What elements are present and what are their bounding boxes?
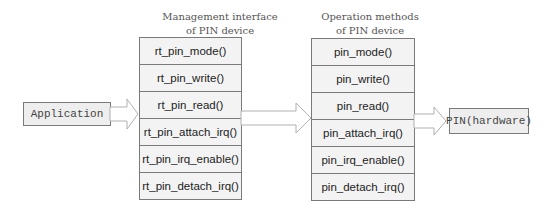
operation-item-pin-write: pin_write() — [312, 66, 414, 93]
management-interface-stack: rt_pin_mode() rt_pin_write() rt_pin_read… — [139, 37, 242, 200]
operation-item-pin-mode: pin_mode() — [312, 39, 414, 66]
management-item-pin-irq-enable: rt_pin_irq_enable() — [140, 146, 241, 173]
management-item-pin-write: rt_pin_write() — [140, 65, 241, 92]
operation-item-pin-detach-irq: pin_detach_irq() — [312, 174, 414, 200]
hardware-box: PIN(hardware) — [449, 108, 529, 134]
management-item-pin-attach-irq: rt_pin_attach_irq() — [140, 119, 241, 146]
operation-methods-stack: pin_mode() pin_write() pin_read() pin_at… — [311, 38, 415, 201]
arrow-application-to-management-icon — [110, 98, 140, 130]
application-label: Application — [31, 108, 104, 120]
application-box: Application — [23, 102, 111, 126]
arrow-management-to-operation-icon — [241, 102, 313, 134]
arrow-operation-to-hardware-icon — [414, 106, 448, 136]
operation-item-pin-irq-enable: pin_irq_enable() — [312, 147, 414, 174]
management-item-pin-detach-irq: rt_pin_detach_irq() — [140, 173, 241, 199]
management-item-pin-read: rt_pin_read() — [140, 92, 241, 119]
hardware-label: PIN(hardware) — [446, 115, 532, 127]
operation-title: Operation methods of PIN device — [290, 10, 450, 38]
management-item-pin-mode: rt_pin_mode() — [140, 38, 241, 65]
operation-item-pin-attach-irq: pin_attach_irq() — [312, 120, 414, 147]
operation-item-pin-read: pin_read() — [312, 93, 414, 120]
management-title: Management interface of PIN device — [125, 10, 315, 38]
